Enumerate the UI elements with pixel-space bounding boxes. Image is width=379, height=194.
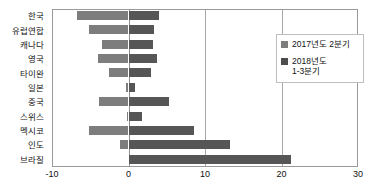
bar-segment xyxy=(99,97,129,106)
bar-segment xyxy=(129,97,170,106)
category-label: 스위스 xyxy=(20,110,44,124)
chart-legend: 2017년도 2분기2018년도 1-3분기 xyxy=(276,34,364,83)
bar-row xyxy=(52,9,358,23)
legend-swatch-icon xyxy=(281,58,288,65)
x-tick-label: 10 xyxy=(200,169,210,179)
bar-row xyxy=(52,138,358,152)
bar-segment xyxy=(129,54,157,63)
bar-segment xyxy=(129,83,136,92)
category-label: 인도 xyxy=(28,138,44,152)
bar-row xyxy=(52,153,358,167)
legend-label: 2017년도 2분기 xyxy=(292,39,350,50)
bar-segment xyxy=(129,126,194,135)
category-label: 타이완 xyxy=(20,67,44,81)
legend-item[interactable]: 2017년도 2분기 xyxy=(281,39,360,50)
bar-series-group xyxy=(52,9,358,167)
x-tick-label: 30 xyxy=(353,169,363,179)
bar-segment xyxy=(129,68,151,77)
legend-label: 2018년도 1-3분기 xyxy=(292,56,327,77)
bar-segment xyxy=(129,112,143,121)
category-label: 일본 xyxy=(28,81,44,95)
bar-segment xyxy=(129,155,291,164)
x-tick-label: 20 xyxy=(276,169,286,179)
bar-row xyxy=(52,81,358,95)
bar-segment xyxy=(129,40,153,49)
bar-chart: 한국유럽연합캐나다영국타이완일본중국스위스멕시코인도브라질 -100102030… xyxy=(0,0,379,194)
value-axis: -100102030 xyxy=(52,169,358,187)
bar-row xyxy=(52,124,358,138)
category-label: 중국 xyxy=(28,95,44,109)
category-label: 캐나다 xyxy=(20,38,44,52)
bar-segment xyxy=(102,40,129,49)
bar-segment xyxy=(77,11,128,20)
x-tick-label: 0 xyxy=(126,169,131,179)
bar-segment xyxy=(120,140,128,149)
x-tick-label: -10 xyxy=(45,169,58,179)
category-label: 영국 xyxy=(28,52,44,66)
category-label: 유럽연합 xyxy=(12,24,44,38)
bar-segment xyxy=(129,25,154,34)
bar-segment xyxy=(129,11,160,20)
bar-row xyxy=(52,110,358,124)
bar-segment xyxy=(129,140,231,149)
bar-segment xyxy=(89,25,128,34)
bar-segment xyxy=(98,54,129,63)
category-label: 브라질 xyxy=(20,153,44,167)
bar-segment xyxy=(89,126,128,135)
legend-item[interactable]: 2018년도 1-3분기 xyxy=(281,56,360,77)
category-label: 멕시코 xyxy=(20,124,44,138)
legend-swatch-icon xyxy=(281,41,288,48)
category-label: 한국 xyxy=(28,9,44,23)
bar-segment xyxy=(109,68,129,77)
category-axis: 한국유럽연합캐나다영국타이완일본중국스위스멕시코인도브라질 xyxy=(0,9,48,167)
bar-row xyxy=(52,95,358,109)
